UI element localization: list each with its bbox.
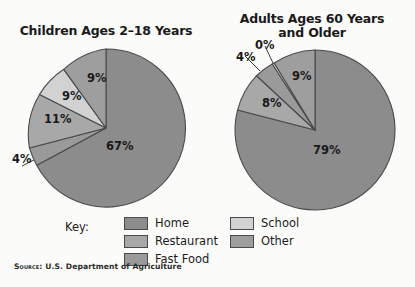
pie-value-children-school: 9% xyxy=(62,89,82,103)
legend-key-label: Key: xyxy=(65,220,89,234)
pie-value-adults-school: 0% xyxy=(255,38,275,52)
source-note: Source: U.S. Department of Agriculture xyxy=(14,262,182,271)
legend-label-restaurant: Restaurant xyxy=(155,234,218,248)
legend-label-school: School xyxy=(261,216,299,230)
legend-item-other[interactable]: Other xyxy=(230,232,299,250)
source-text: U.S. Department of Agriculture xyxy=(45,262,181,271)
pie-value-children-restaurant: 11% xyxy=(44,112,72,126)
legend-swatch-home xyxy=(124,217,148,230)
chart-page: Children Ages 2–18 Years 67% 9% 9% 11% 4… xyxy=(0,0,415,287)
legend-item-home[interactable]: Home xyxy=(124,214,218,232)
legend-column-1: Home Restaurant Fast Food xyxy=(124,214,218,268)
pie-value-children-other: 9% xyxy=(87,71,107,85)
legend-label-other: Other xyxy=(261,234,294,248)
legend-swatch-school xyxy=(230,217,254,230)
pie-value-children-home: 67% xyxy=(106,139,134,153)
legend-label-home: Home xyxy=(155,216,189,230)
pie-value-adults-home: 79% xyxy=(313,143,341,157)
legend-column-2: School Other xyxy=(230,214,299,250)
legend-item-restaurant[interactable]: Restaurant xyxy=(124,232,218,250)
chart-title-adults-line2: and Older xyxy=(222,26,402,40)
legend-item-school[interactable]: School xyxy=(230,214,299,232)
legend-swatch-restaurant xyxy=(124,235,148,248)
source-prefix: Source: xyxy=(14,262,42,271)
chart-title-adults-line1: Adults Ages 60 Years xyxy=(222,12,402,26)
chart-title-children: Children Ages 2–18 Years xyxy=(6,24,206,38)
legend: Key: Home Restaurant Fast Food School xyxy=(0,206,415,262)
pie-value-adults-restaurant: 8% xyxy=(262,96,282,110)
pie-value-adults-fast-food: 4% xyxy=(236,50,256,64)
pie-chart-children xyxy=(22,44,190,212)
pie-chart-adults xyxy=(229,44,401,216)
legend-swatch-other xyxy=(230,235,254,248)
pie-chart-children-svg xyxy=(22,44,190,212)
pie-chart-adults-svg xyxy=(229,44,401,216)
pie-value-children-fast-food: 4% xyxy=(12,152,32,166)
pie-value-adults-other: 9% xyxy=(292,69,312,83)
chart-title-adults: Adults Ages 60 Years and Older xyxy=(222,12,402,39)
